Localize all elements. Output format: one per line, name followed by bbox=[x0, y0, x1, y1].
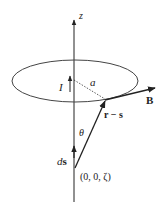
point-label: (0, 0, ζ) bbox=[80, 171, 111, 183]
element-label: ds bbox=[57, 155, 68, 167]
displacement-label: r − s bbox=[104, 109, 123, 120]
radius-label: a bbox=[90, 76, 96, 88]
field-vector-label: B bbox=[146, 94, 154, 106]
current-loop-diagram: z I a B r − s θ ds (0, 0, ζ) bbox=[0, 0, 165, 212]
angle-label: θ bbox=[79, 127, 84, 138]
current-label: I bbox=[58, 81, 64, 93]
z-axis-label: z bbox=[78, 10, 83, 21]
